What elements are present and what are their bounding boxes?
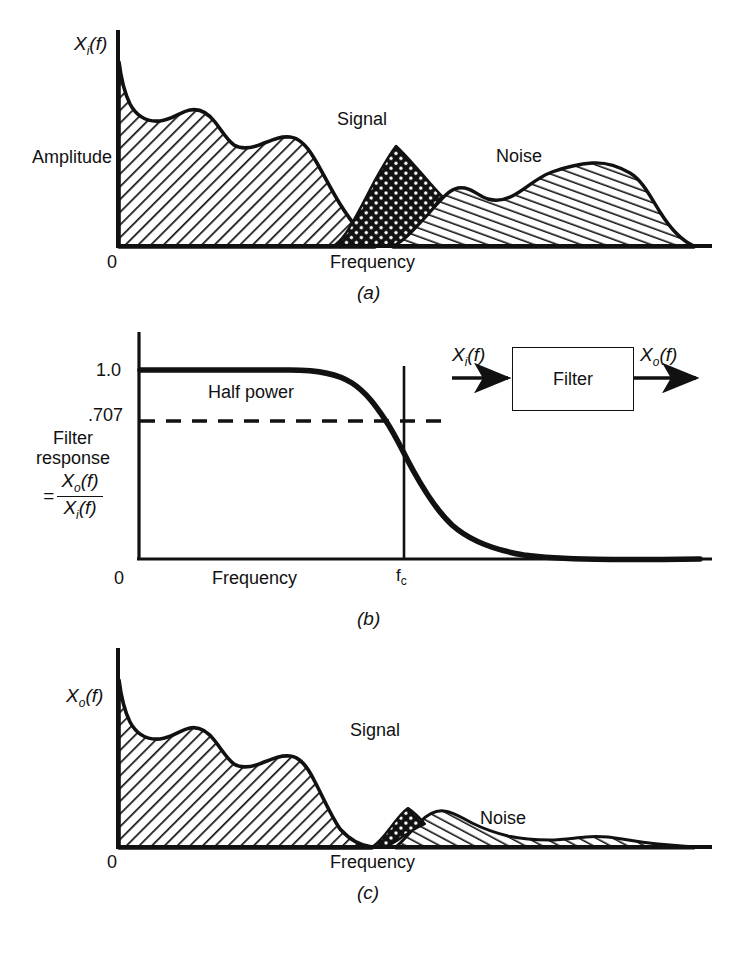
panel-b-response-curve — [140, 370, 700, 560]
panel-b-filter-response: 1.0 .707 Half power Filter response =Xo(… — [0, 320, 747, 640]
panel-b-plot — [0, 320, 747, 620]
panel-a-noise-area — [393, 163, 694, 247]
panel-c-output-spectrum: Xo(f) Signal Noise 0 Frequency (c) — [0, 640, 747, 958]
panel-a-plot — [0, 0, 747, 280]
panel-a-caption: (a) — [357, 282, 380, 304]
panel-a-signal-area — [119, 62, 375, 247]
panel-c-noise-area — [396, 811, 694, 848]
panel-a-input-spectrum: Xi(f) Amplitude Signal Noise 0 Frequency… — [0, 0, 747, 310]
panel-c-signal-area — [119, 680, 372, 848]
panel-c-caption: (c) — [357, 882, 379, 904]
panel-c-plot — [0, 640, 747, 880]
